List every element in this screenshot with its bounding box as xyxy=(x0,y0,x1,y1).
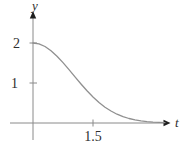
x-axis-label: t xyxy=(175,115,179,130)
y-tick-label-1: 1 xyxy=(11,76,18,91)
y-tick-label-2: 2 xyxy=(13,36,20,51)
y-axis-label: y xyxy=(30,0,38,13)
x-tick-label-1-5: 1.5 xyxy=(84,129,102,144)
plot-canvas: y t 2 1 1.5 xyxy=(0,0,191,152)
function-graph-figure: y t 2 1 1.5 xyxy=(0,0,191,152)
function-curve xyxy=(33,43,165,123)
